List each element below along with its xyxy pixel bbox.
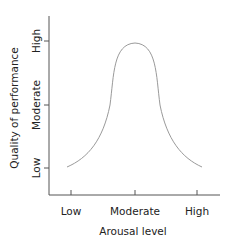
y-tick-label-low: Low (30, 157, 42, 178)
x-tick-label-moderate: Moderate (110, 205, 160, 217)
y-axis-title: Quality of performance (8, 47, 20, 169)
performance-curve (67, 43, 202, 167)
y-tick-label-high: High (30, 29, 42, 53)
x-tick-label-low: Low (61, 205, 82, 217)
chart: High Moderate Low Quality of performance… (0, 0, 227, 247)
x-axis-title: Arousal level (99, 225, 166, 237)
x-tick-label-high: High (185, 205, 209, 217)
y-tick-label-moderate: Moderate (30, 80, 42, 130)
